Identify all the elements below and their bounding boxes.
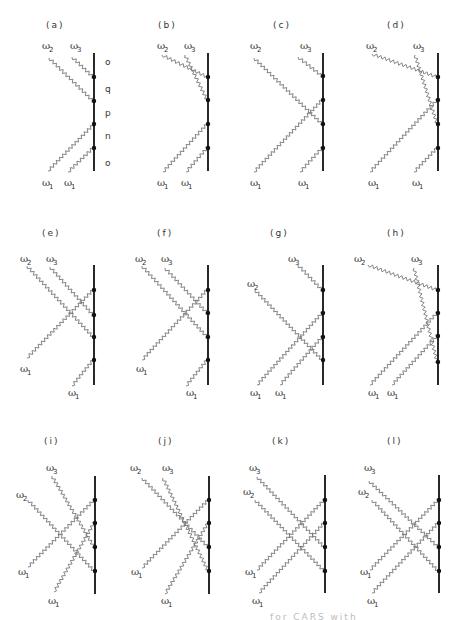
photon-wave-line bbox=[298, 265, 322, 291]
photon-wave-line bbox=[298, 57, 322, 77]
photon-wave-line bbox=[54, 522, 94, 592]
photon-wave-line bbox=[48, 125, 94, 171]
panel-e: (e)ω2ω3ω1ω1 bbox=[20, 228, 96, 401]
vertex-dot bbox=[321, 146, 325, 150]
panel-label: (f) bbox=[157, 228, 173, 238]
state-label-n: n bbox=[105, 131, 111, 141]
vertex-dot bbox=[92, 99, 96, 103]
panel-label: (c) bbox=[273, 20, 291, 30]
panel-c: (c)ω2ω3ω1ω1 bbox=[250, 20, 325, 191]
panel-label: (l) bbox=[387, 436, 403, 446]
panel-h: (h)ω2ω3ω1ω1 bbox=[354, 228, 440, 401]
vertex-dot bbox=[321, 98, 325, 102]
omega-subscript: 1 bbox=[305, 183, 309, 191]
vertex-dot bbox=[436, 146, 440, 150]
vertex-dot bbox=[206, 335, 210, 339]
vertex-dot bbox=[206, 358, 210, 362]
omega-subscript: 2 bbox=[137, 468, 141, 476]
vertex-dot bbox=[206, 288, 210, 292]
vertex-dot bbox=[92, 313, 96, 317]
vertex-dot bbox=[207, 545, 211, 549]
photon-wave-line bbox=[142, 290, 208, 360]
vertex-dot bbox=[323, 498, 327, 502]
photon-wave-line bbox=[165, 268, 207, 314]
photon-wave-line bbox=[368, 265, 437, 292]
vertex-dot bbox=[323, 545, 327, 549]
omega-subscript: 2 bbox=[365, 492, 369, 500]
omega-subscript: 2 bbox=[361, 259, 365, 267]
omega-subscript: 1 bbox=[55, 601, 59, 609]
vertex-dot bbox=[436, 122, 440, 126]
omega-subscript: 3 bbox=[169, 468, 173, 476]
omega-subscript: 3 bbox=[371, 468, 375, 476]
omega-subscript: 1 bbox=[375, 393, 379, 401]
omega-subscript: 2 bbox=[164, 46, 168, 54]
vertex-dot bbox=[206, 311, 210, 315]
omega-subscript: 1 bbox=[49, 183, 53, 191]
photon-wave-line bbox=[414, 148, 438, 172]
photon-wave-line bbox=[50, 267, 93, 316]
omega-subscript: 1 bbox=[164, 183, 168, 191]
omega-subscript: 3 bbox=[256, 468, 260, 476]
panel-l: (l)ω3ω2ω1ω1 bbox=[358, 436, 441, 609]
vertex-dot bbox=[437, 498, 441, 502]
vertex-dot bbox=[207, 569, 211, 573]
panel-i: (i)ω3ω2ω1ω1 bbox=[16, 436, 97, 609]
vertex-dot bbox=[93, 521, 97, 525]
omega-subscript: 1 bbox=[419, 183, 423, 191]
panel-label: (d) bbox=[387, 20, 406, 30]
vertex-dot bbox=[206, 98, 210, 102]
photon-wave-line bbox=[280, 336, 322, 385]
omega-subscript: 1 bbox=[367, 572, 371, 580]
panel-f: (f)ω2ω3ω1ω1 bbox=[135, 228, 210, 401]
omega-subscript: 1 bbox=[71, 183, 75, 191]
vertex-dot bbox=[323, 521, 327, 525]
photon-wave-line bbox=[186, 360, 208, 386]
omega-subscript: 2 bbox=[250, 492, 254, 500]
omega-subscript: 1 bbox=[259, 601, 263, 609]
omega-subscript: 1 bbox=[282, 393, 286, 401]
panel-label: (k) bbox=[272, 436, 290, 446]
figure-caption-partial: for CARS with bbox=[270, 612, 358, 620]
vertex-dot bbox=[206, 122, 210, 126]
omega-subscript: 3 bbox=[77, 46, 81, 54]
vertex-dot bbox=[93, 545, 97, 549]
vertex-dot bbox=[436, 360, 440, 364]
vertex-dot bbox=[323, 569, 327, 573]
state-label-q: q bbox=[105, 84, 111, 94]
panel-label: (b) bbox=[158, 20, 177, 30]
omega-subscript: 2 bbox=[23, 495, 27, 503]
photon-wave-line bbox=[68, 148, 94, 172]
vertex-dot bbox=[321, 122, 325, 126]
vertex-dot bbox=[321, 335, 325, 339]
omega-subscript: 2 bbox=[142, 259, 146, 267]
photon-wave-line bbox=[300, 147, 322, 172]
vertex-dot bbox=[436, 75, 440, 79]
panel-label: (e) bbox=[42, 228, 61, 238]
photon-wave-line bbox=[414, 55, 438, 124]
vertex-dot bbox=[206, 146, 210, 150]
photon-wave-line bbox=[372, 523, 439, 593]
vertex-dot bbox=[206, 75, 210, 79]
panel-g: (g)ω3ω2ω1ω1 bbox=[247, 228, 325, 401]
vertex-dot bbox=[321, 288, 325, 292]
photon-wave-line bbox=[142, 478, 208, 548]
omega-subscript: 3 bbox=[295, 259, 299, 267]
vertex-dot bbox=[93, 498, 97, 502]
omega-subscript: 3 bbox=[418, 259, 422, 267]
vertex-dot bbox=[436, 334, 440, 338]
photon-wave-line bbox=[49, 58, 93, 102]
omega-subscript: 3 bbox=[307, 46, 311, 54]
omega-subscript: 3 bbox=[53, 468, 57, 476]
omega-subscript: 3 bbox=[168, 259, 172, 267]
vertex-dot bbox=[92, 288, 96, 292]
photon-wave-line bbox=[392, 335, 437, 385]
photon-wave-line bbox=[163, 124, 208, 172]
panel-k: (k)ω3ω2ω1ω1 bbox=[243, 436, 327, 609]
omega-subscript: 3 bbox=[53, 259, 57, 267]
omega-subscript: 3 bbox=[191, 46, 195, 54]
omega-subscript: 1 bbox=[375, 183, 379, 191]
omega-subscript: 2 bbox=[373, 46, 377, 54]
panel-b: (b)ω2ω3ω1ω1 bbox=[157, 20, 210, 191]
panel-label: (j) bbox=[158, 436, 174, 446]
